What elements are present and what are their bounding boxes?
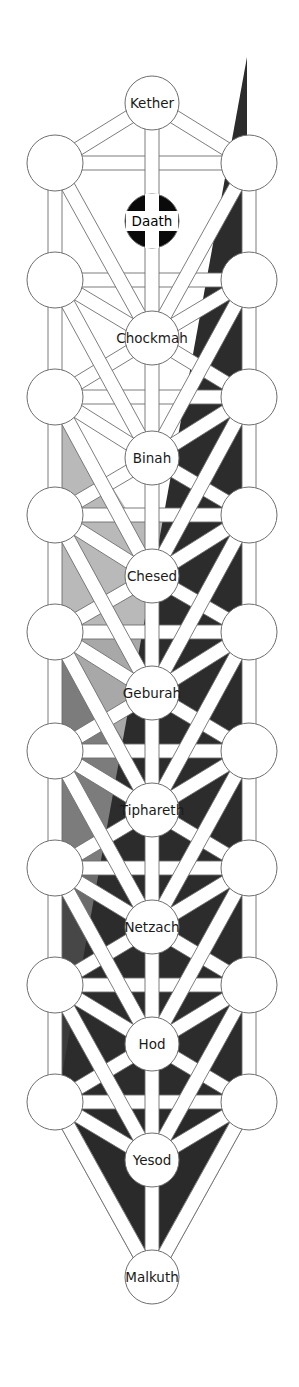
- sphere-hod: Hod: [125, 1017, 179, 1071]
- left-sphere: [27, 723, 83, 779]
- sphere-netzach: Netzach: [124, 900, 179, 954]
- tree-of-life-diagram: KetherDaathChockmahBinahChesedGeburahTip…: [0, 0, 299, 1387]
- right-sphere: [221, 957, 277, 1013]
- left-sphere: [27, 957, 83, 1013]
- left-sphere: [27, 135, 83, 191]
- sphere-daath: Daath: [125, 194, 179, 248]
- sphere-malkuth: Malkuth: [125, 1250, 179, 1304]
- right-sphere: [221, 723, 277, 779]
- sphere-label: Kether: [130, 95, 175, 111]
- sphere-kether: Kether: [125, 76, 179, 130]
- sphere-chesed: Chesed: [125, 549, 179, 603]
- right-sphere: [221, 252, 277, 308]
- sphere-binah: Binah: [125, 431, 179, 485]
- sphere-label: Chesed: [127, 568, 177, 584]
- sphere-label: Chockmah: [116, 330, 187, 346]
- right-sphere: [221, 369, 277, 425]
- sphere-label: Netzach: [124, 919, 179, 935]
- sphere-label: Hod: [139, 1036, 166, 1052]
- left-sphere: [27, 487, 83, 543]
- sphere-label: Daath: [132, 213, 173, 229]
- right-sphere: [221, 840, 277, 896]
- right-sphere: [221, 1074, 277, 1130]
- sphere-label: Yesod: [132, 1152, 172, 1168]
- right-sphere: [221, 135, 277, 191]
- left-sphere: [27, 252, 83, 308]
- sphere-label: Malkuth: [125, 1269, 178, 1285]
- sphere-label: Geburah: [123, 685, 181, 701]
- sphere-yesod: Yesod: [125, 1133, 179, 1187]
- left-sphere: [27, 1074, 83, 1130]
- right-sphere: [221, 487, 277, 543]
- left-sphere: [27, 369, 83, 425]
- right-sphere: [221, 604, 277, 660]
- sphere-label: Tiphareth: [119, 802, 184, 818]
- sphere-label: Binah: [133, 450, 171, 466]
- left-sphere: [27, 604, 83, 660]
- left-sphere: [27, 840, 83, 896]
